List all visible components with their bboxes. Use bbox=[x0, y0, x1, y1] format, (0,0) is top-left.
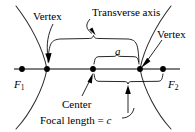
vertex-left-pointer bbox=[45, 24, 53, 64]
label-focus-left: F1 bbox=[14, 79, 24, 92]
label-semi-transverse-a: a bbox=[115, 46, 121, 57]
label-focal-length: Focal length = c bbox=[40, 115, 111, 126]
focal-length-brace bbox=[94, 74, 163, 84]
focal-length-text: Focal length = bbox=[40, 114, 106, 126]
label-transverse-axis: Transverse axis bbox=[92, 7, 160, 18]
focal-length-symbol: c bbox=[106, 114, 111, 126]
label-vertex-left: Vertex bbox=[33, 11, 62, 22]
focus-left-point bbox=[19, 66, 25, 72]
focal-length-pointer bbox=[122, 85, 134, 118]
focus-right-subscript: 2 bbox=[175, 83, 179, 92]
transverse-axis-brace bbox=[48, 36, 139, 63]
right-branch-curve bbox=[140, 6, 171, 129]
transverse-axis-pointer bbox=[87, 19, 96, 35]
label-center: Center bbox=[62, 99, 91, 110]
focus-right-letter: F bbox=[168, 78, 175, 90]
focus-left-subscript: 1 bbox=[21, 83, 25, 92]
center-pointer bbox=[82, 73, 93, 96]
center-point bbox=[90, 66, 96, 72]
label-vertex-right: Vertex bbox=[157, 29, 186, 40]
hyperbola-diagram-svg bbox=[0, 0, 195, 132]
hyperbola-figure: Vertex Transverse axis Vertex a F1 F2 Ce… bbox=[0, 0, 195, 132]
vertex-left-point bbox=[44, 66, 50, 72]
focus-left-letter: F bbox=[14, 78, 21, 90]
focus-right-point bbox=[160, 66, 166, 72]
label-focus-right: F2 bbox=[168, 79, 178, 92]
